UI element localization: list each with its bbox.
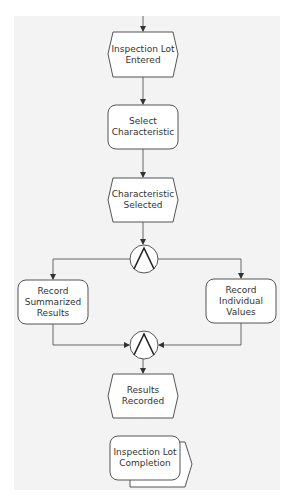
label-line: Values [219, 307, 263, 318]
label-line: Entered [111, 55, 174, 66]
edge-func3-join [159, 323, 241, 345]
label-line: Inspection Lot [113, 447, 176, 458]
interface-label: Inspection LotCompletion [110, 436, 180, 480]
label-line: Characteristic [112, 127, 175, 138]
label-line: Results [122, 385, 164, 396]
label-line: Individual [219, 296, 263, 307]
label-line: Completion [113, 458, 176, 469]
edge-and-func2 [53, 259, 130, 279]
edge-func2-join [53, 324, 129, 345]
label-line: Inspection Lot [111, 44, 174, 55]
label-line: Characteristic [112, 189, 175, 200]
label-line: Record [219, 285, 263, 296]
label-line: Select [112, 116, 175, 127]
function-2-label: RecordSummarizedResults [18, 280, 88, 324]
label-line: Record [25, 286, 82, 297]
function-1-label: SelectCharacteristic [108, 105, 178, 149]
label-line: Summarized [25, 297, 82, 308]
edge-and-func3 [158, 259, 241, 278]
event-1-label: Inspection LotEntered [108, 32, 178, 77]
event-2-label: CharacteristicSelected [108, 178, 178, 222]
function-3-label: RecordIndividualValues [206, 279, 276, 323]
label-line: Recorded [122, 396, 164, 407]
event-3-label: ResultsRecorded [108, 374, 178, 418]
label-line: Results [25, 308, 82, 319]
label-line: Selected [112, 200, 175, 211]
